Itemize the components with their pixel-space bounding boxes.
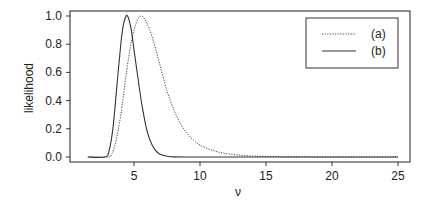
x-tick-label: 25 bbox=[391, 169, 405, 183]
x-tick-label: 5 bbox=[131, 169, 138, 183]
y-axis: 0.00.20.40.60.81.0 bbox=[45, 9, 70, 164]
x-tick-label: 10 bbox=[193, 169, 207, 183]
x-tick-label: 15 bbox=[259, 169, 273, 183]
legend: (a) (b) bbox=[306, 18, 398, 68]
x-axis: 510152025 bbox=[131, 162, 405, 183]
y-tick-label: 0.8 bbox=[45, 37, 62, 51]
y-tick-label: 1.0 bbox=[45, 9, 62, 23]
likelihood-chart: 0.00.20.40.60.81.0 510152025 likelihood … bbox=[0, 0, 429, 207]
y-tick-label: 0.0 bbox=[45, 150, 62, 164]
x-tick-label: 20 bbox=[325, 169, 339, 183]
y-tick-label: 0.2 bbox=[45, 122, 62, 136]
legend-label-a: (a) bbox=[371, 27, 386, 41]
y-tick-label: 0.6 bbox=[45, 65, 62, 79]
x-axis-label: ν bbox=[235, 185, 241, 199]
legend-label-b: (b) bbox=[371, 44, 386, 58]
legend-box bbox=[306, 18, 398, 68]
y-axis-label: likelihood bbox=[22, 63, 36, 113]
y-tick-label: 0.4 bbox=[45, 94, 62, 108]
